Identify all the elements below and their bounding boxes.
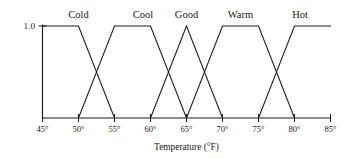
set-label-cool: Cool (133, 9, 154, 20)
set-label-warm: Warm (228, 9, 253, 20)
chart-canvas: 1.0 Cold Cool Good Warm Hot 45° 50° 55° … (0, 0, 351, 159)
x-tick-label-55: 55° (108, 124, 121, 134)
x-tick-label-70: 70° (216, 124, 229, 134)
x-tick-label-45: 45° (36, 124, 49, 134)
x-tick-label-80: 80° (288, 124, 301, 134)
set-label-good: Good (175, 9, 199, 20)
x-tick-label-85: 85° (324, 124, 337, 134)
x-axis-title: Temperature (°F) (154, 142, 219, 153)
x-tick-label-60: 60° (144, 124, 157, 134)
curve-hot (259, 26, 332, 118)
set-label-cold: Cold (68, 9, 89, 20)
x-tick-label-75: 75° (252, 124, 265, 134)
curve-warm (187, 26, 295, 118)
x-tick-label-50: 50° (72, 124, 85, 134)
curve-cold (43, 26, 115, 118)
set-label-hot: Hot (292, 9, 308, 20)
curve-good (151, 26, 223, 118)
x-tick-label-65: 65° (180, 124, 193, 134)
fuzzy-membership-chart: 1.0 Cold Cool Good Warm Hot 45° 50° 55° … (0, 0, 351, 159)
y-axis-max-label: 1.0 (24, 21, 36, 31)
curve-cool (79, 26, 187, 118)
